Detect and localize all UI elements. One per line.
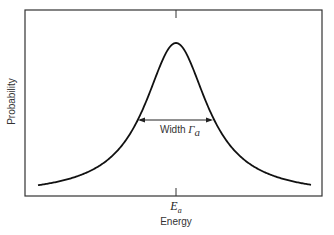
arrow-right-icon	[206, 118, 213, 123]
tick-main: E	[170, 199, 177, 213]
tick-sub: a	[178, 206, 182, 215]
x-tick-label: Ea	[160, 199, 192, 215]
width-text: Width	[160, 124, 188, 135]
plot-frame	[25, 10, 322, 196]
y-axis-label: Probability	[6, 77, 17, 127]
width-annotation: Width Γa	[150, 123, 210, 138]
x-axis-label: Energy	[150, 216, 202, 227]
lorentzian-curve	[38, 43, 311, 185]
gamma-subscript: a	[195, 126, 201, 138]
